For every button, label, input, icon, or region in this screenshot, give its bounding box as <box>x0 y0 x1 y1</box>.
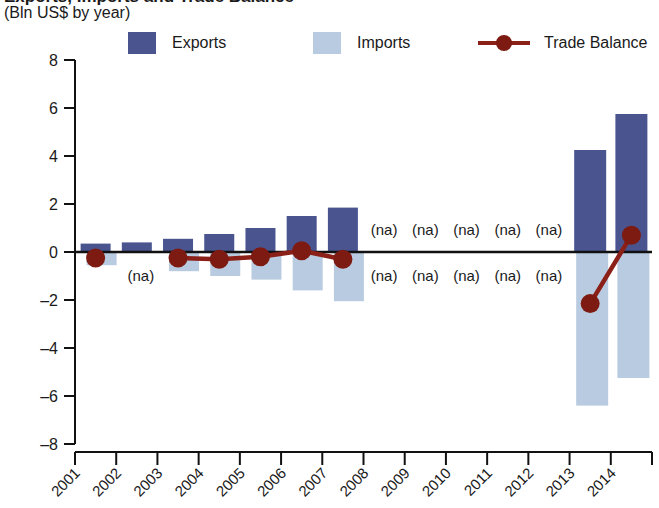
y-axis-label-0: 0 <box>49 244 58 261</box>
x-axis-label-2008: 2008 <box>336 464 372 500</box>
bar-exports-2007 <box>328 208 358 252</box>
x-axis-label-2001: 2001 <box>48 464 84 500</box>
x-axis-label-2010: 2010 <box>418 464 454 500</box>
y-axis-label--8: –8 <box>40 436 58 453</box>
x-axis-label-2005: 2005 <box>212 464 248 500</box>
bars-layer <box>81 114 650 406</box>
trade-balance-point-2007 <box>333 250 352 269</box>
x-axis-label-2009: 2009 <box>377 464 413 500</box>
y-axis-label-4: 4 <box>49 148 58 165</box>
na-label-2011-exports: (na) <box>494 221 521 238</box>
x-axis-label-2006: 2006 <box>254 464 290 500</box>
trade-balance-point-2004 <box>210 250 229 269</box>
na-label-2010-exports: (na) <box>453 221 480 238</box>
x-axis-label-2012: 2012 <box>501 464 537 500</box>
trade-balance-point-2005 <box>251 247 270 266</box>
x-axis-label-2007: 2007 <box>295 464 331 500</box>
na-label-2012-imports: (na) <box>536 267 563 284</box>
y-axis-label-2: 2 <box>49 196 58 213</box>
y-axis-label--4: –4 <box>40 340 58 357</box>
trade-balance-point-2001 <box>86 249 105 268</box>
y-axis-label-6: 6 <box>49 100 58 117</box>
bar-imports-2014 <box>617 252 649 378</box>
trade-balance-point-2014 <box>622 226 641 245</box>
na-label-2008-exports: (na) <box>371 221 398 238</box>
x-axis-label-2011: 2011 <box>460 464 495 499</box>
x-axis-label-2002: 2002 <box>89 464 125 500</box>
bar-exports-2002 <box>122 242 152 252</box>
trade-balance-point-2006 <box>292 241 311 260</box>
bar-exports-2004 <box>204 234 234 252</box>
x-axis-label-2014: 2014 <box>583 464 619 500</box>
na-label-2010-imports: (na) <box>453 267 480 284</box>
plot-area: (na)(na)(na)(na)(na)(na)(na)(na)(na)(na)… <box>0 0 659 508</box>
bar-imports-2013 <box>576 252 608 406</box>
na-label-2002-imports: (na) <box>127 267 154 284</box>
x-axis-label-2004: 2004 <box>171 464 207 500</box>
na-label-2011-imports: (na) <box>494 267 521 284</box>
x-axis-labels-layer: 2001200220032004200520062007200820092010… <box>48 464 619 500</box>
na-label-2008-imports: (na) <box>371 267 398 284</box>
na-label-2012-exports: (na) <box>536 221 563 238</box>
chart-container: Exports, Imports and Trade Balance (Bln … <box>0 0 659 508</box>
y-axis-label--2: –2 <box>40 292 58 309</box>
y-axis-label--6: –6 <box>40 388 58 405</box>
y-axis-label-8: 8 <box>49 52 58 69</box>
chart-svg: (na)(na)(na)(na)(na)(na)(na)(na)(na)(na)… <box>0 0 659 508</box>
x-axis-label-2003: 2003 <box>130 464 166 500</box>
x-axis-label-2013: 2013 <box>542 464 578 500</box>
trade-balance-point-2013 <box>581 294 600 313</box>
trade-balance-point-2003 <box>169 249 188 268</box>
na-label-2009-imports: (na) <box>412 267 439 284</box>
bar-exports-2013 <box>574 150 606 252</box>
y-axis-labels-layer: 86420–2–4–6–8 <box>40 52 58 453</box>
na-label-2009-exports: (na) <box>412 221 439 238</box>
